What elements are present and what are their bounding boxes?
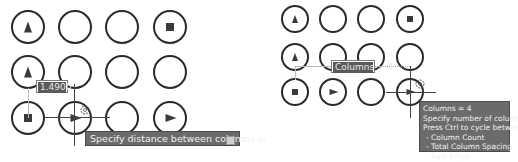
dimension-line-left <box>295 66 331 67</box>
command-prompt-tooltip: Columns = 4 Specify number of columns: P… <box>419 101 510 152</box>
array-item-circle <box>319 5 347 33</box>
tooltip-line: Columns = 4 <box>423 104 506 114</box>
array-item-circle <box>105 101 139 135</box>
array-item-circle <box>105 10 139 44</box>
triangle-up-icon <box>24 67 32 78</box>
tooltip-line: - Axis Angle <box>423 152 506 162</box>
array-item-circle <box>153 101 187 135</box>
triangle-up-icon <box>24 22 32 33</box>
grip-cursor-icon <box>414 78 426 90</box>
square-icon <box>292 89 298 95</box>
triangle-up-icon <box>292 15 298 23</box>
square-icon <box>407 16 413 22</box>
array-item-circle <box>357 5 385 33</box>
array-item-circle <box>153 10 187 44</box>
triangle-up-icon <box>292 53 298 61</box>
extension-line <box>28 88 29 118</box>
tooltip-line: - Column Count <box>423 133 506 143</box>
tooltip-line: Specify number of columns: <box>423 114 506 124</box>
command-prompt-tooltip: Specify distance between columns or <box>85 131 240 146</box>
distance-input[interactable]: 1.4900 <box>36 80 68 93</box>
distance-input-value: 1.4900 <box>38 82 66 93</box>
grip-cursor-icon <box>79 104 91 116</box>
tooltip-text: Specify distance between columns or <box>90 133 268 144</box>
tooltip-line: Press Ctrl to cycle between: <box>423 123 506 133</box>
square-icon <box>166 23 174 31</box>
array-item-circle <box>105 55 139 89</box>
array-item-circle <box>396 5 424 33</box>
triangle-right-icon <box>166 114 177 122</box>
crosshair-vertical <box>74 84 75 146</box>
left-array-preview: 1.4900 Specify distance between columns … <box>0 0 258 161</box>
array-item-circle <box>153 55 187 89</box>
array-item-circle <box>357 78 385 106</box>
array-item-circle <box>11 10 45 44</box>
column-count-input-value: Columns = 4 <box>333 62 373 73</box>
crosshair-horizontal <box>386 92 436 93</box>
triangle-right-icon <box>330 89 339 95</box>
tooltip-line: - Total Column Spacing <box>423 142 506 152</box>
array-item-circle <box>281 78 309 106</box>
right-array-preview: Columns = 4 Columns = 4 Specify number o… <box>258 0 518 161</box>
column-count-input[interactable]: Columns = 4 <box>331 60 375 73</box>
expand-options-icon[interactable] <box>226 136 235 145</box>
array-item-circle <box>58 10 92 44</box>
array-item-circle <box>281 5 309 33</box>
extension-line <box>295 66 296 80</box>
dimension-line <box>44 117 110 118</box>
array-item-circle <box>319 78 347 106</box>
